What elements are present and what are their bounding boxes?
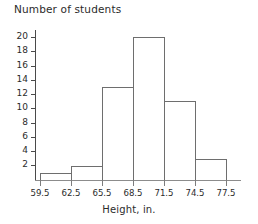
x-tick-label-77.5: 77.5 [216,188,235,198]
x-tick-71.5 [164,180,165,186]
y-tick-label-20: 20 [17,31,28,42]
y-axis-line [35,30,36,181]
y-tick-label-18: 18 [17,45,28,56]
y-tick-label-14: 14 [17,74,28,85]
x-tick-label-68.5: 68.5 [123,188,142,198]
bar-62.5-65.5 [71,166,103,181]
plot-area: 2 4 6 8 10 12 14 16 18 20 [35,30,241,180]
x-tick-65.5 [102,180,103,186]
bar-71.5-74.5 [164,101,196,181]
x-axis-title: Height, in. [0,204,258,215]
bar-68.5-71.5 [133,37,165,181]
x-tick-label-65.5: 65.5 [92,188,111,198]
x-tick-74.5 [195,180,196,186]
x-tick-62.5 [71,180,72,186]
y-tick-14: 14 [31,80,36,81]
y-tick-6: 6 [31,137,36,138]
histogram-chart: Number of students 2 4 6 8 10 12 14 16 1… [0,0,258,224]
y-tick-label-12: 12 [17,88,28,99]
y-tick-label-2: 2 [22,159,28,170]
y-tick-18: 18 [31,51,36,52]
y-tick-label-16: 16 [17,60,28,71]
y-tick-label-4: 4 [22,145,28,156]
bar-65.5-68.5 [102,87,134,181]
y-tick-label-8: 8 [22,117,28,128]
x-tick-77.5 [226,180,227,186]
y-tick-12: 12 [31,94,36,95]
bar-74.5-77.5 [195,159,227,181]
y-tick-20: 20 [31,37,36,38]
x-tick-label-62.5: 62.5 [61,188,80,198]
y-tick-4: 4 [31,151,36,152]
y-tick-16: 16 [31,66,36,67]
y-axis-title: Number of students [14,3,121,15]
x-tick-label-59.5: 59.5 [30,188,49,198]
y-tick-2: 2 [31,165,36,166]
bar-59.5-62.5 [40,173,72,181]
y-tick-label-10: 10 [17,102,28,113]
x-tick-59.5 [40,180,41,186]
y-tick-10: 10 [31,108,36,109]
x-tick-label-74.5: 74.5 [185,188,204,198]
y-tick-label-6: 6 [22,131,28,142]
x-tick-label-71.5: 71.5 [154,188,173,198]
x-tick-68.5 [133,180,134,186]
y-tick-8: 8 [31,123,36,124]
